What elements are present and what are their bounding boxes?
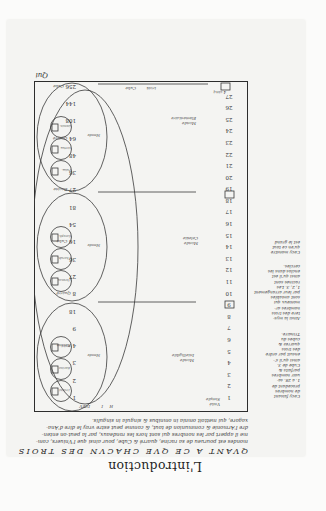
column-number: 13 bbox=[222, 250, 236, 262]
column-number: 14 bbox=[222, 239, 236, 251]
trois-label: trois bbox=[147, 86, 156, 91]
catchword: Qui bbox=[36, 71, 49, 79]
value: 108 bbox=[66, 118, 77, 124]
table-top-label-i: I bbox=[101, 404, 103, 409]
column-number: 7 bbox=[222, 320, 236, 332]
column-number: 1 bbox=[222, 389, 236, 401]
region-label-elementaire: Monde Elementaire bbox=[170, 116, 196, 126]
margin-line: tere des trois bbox=[254, 311, 300, 316]
value-row: 2 bbox=[36, 366, 76, 383]
margin-line: de nombres bbox=[265, 389, 300, 394]
column-number: 18 bbox=[222, 192, 236, 204]
value-row: 4 Racine bbox=[36, 332, 76, 349]
value-row: 108 bbox=[36, 107, 76, 124]
paragraph-line-1: mondes est pourueu de sa racine, quarré … bbox=[36, 438, 248, 445]
value-row: 27 bbox=[36, 263, 76, 280]
value-row: 8 Quarré bbox=[36, 280, 76, 297]
margin-line: racines sont bbox=[254, 279, 300, 284]
column-number: 9 bbox=[222, 297, 236, 309]
value: 4 bbox=[73, 343, 77, 349]
value-label: Quarré bbox=[53, 136, 67, 141]
column-number: 25 bbox=[222, 111, 236, 123]
margin-line: Ainsi la mys- bbox=[254, 316, 300, 321]
margin-line: Trinaire. bbox=[265, 331, 300, 336]
column-number: 12 bbox=[222, 262, 236, 274]
column-number: 20 bbox=[222, 169, 236, 181]
margin-line: parfaits & bbox=[265, 368, 300, 373]
svg-text:Monde: Monde bbox=[87, 133, 101, 137]
paragraph-line-4: xagore, qui mettoit omnia in omnibus & s… bbox=[92, 417, 248, 424]
value-row: 36 bbox=[36, 245, 76, 262]
value: 144 bbox=[66, 101, 77, 107]
column-number: 8 bbox=[222, 308, 236, 320]
value: 1 bbox=[73, 395, 77, 401]
value: 27 bbox=[69, 187, 76, 193]
cinq-label: 4 cinq bbox=[214, 90, 226, 95]
region-label-intelligible: Monde Intelligible bbox=[170, 353, 194, 363]
value-row: 1 bbox=[36, 384, 76, 401]
paragraph-line-2: me il appert par les nombres qui sont ho… bbox=[42, 431, 248, 438]
column-number: 26 bbox=[222, 100, 236, 112]
margin-line: nombres ar- bbox=[254, 305, 300, 310]
region-label-celeste: Monde Celeste bbox=[174, 236, 198, 246]
value: 27 bbox=[69, 274, 76, 280]
column-number: 5 bbox=[222, 343, 236, 355]
vnite-simple-label: Vnité Simple bbox=[200, 397, 220, 407]
column-number: 11 bbox=[222, 273, 236, 285]
margin-line: 1. a 28. sa- bbox=[265, 378, 300, 383]
page-title: L'introduction bbox=[108, 459, 202, 474]
column-number: 21 bbox=[222, 158, 236, 170]
column-number: 16 bbox=[222, 216, 236, 228]
margin-line: cubes du bbox=[265, 337, 300, 342]
margin-line: procedant de bbox=[265, 383, 300, 388]
column-number: 3 bbox=[222, 366, 236, 378]
value-row: 3 bbox=[36, 349, 76, 366]
value: 64 bbox=[69, 136, 76, 142]
column-number: 23 bbox=[222, 134, 236, 146]
section-heading: QVANT A CE QVE CHACVN DES TROIS bbox=[17, 447, 248, 456]
value-row: 54 bbox=[36, 211, 76, 228]
paragraph-line-3: dre l'Armonie & communion de tout, & com… bbox=[46, 424, 248, 431]
value: 3 bbox=[73, 360, 77, 366]
svg-text:Monde: Monde bbox=[87, 353, 101, 357]
margin-line: uoir nombres bbox=[265, 373, 300, 378]
margin-line: sont amiables bbox=[254, 295, 300, 300]
margin-note-lower: Cecy faisant de nombres procedant de 1. … bbox=[265, 331, 300, 399]
value-row: 18 bbox=[36, 297, 76, 314]
margin-line: quarrez & bbox=[265, 342, 300, 347]
cube-label: Cube bbox=[125, 86, 136, 91]
margin-line: ainsi qu'il est bbox=[254, 274, 300, 279]
value: 2 bbox=[73, 378, 77, 384]
value-label: Quarré bbox=[56, 291, 70, 296]
column-number: 6 bbox=[222, 331, 236, 343]
column-number: 22 bbox=[222, 146, 236, 158]
value-row: 9 bbox=[36, 315, 76, 332]
value-label: Cube bbox=[57, 239, 68, 244]
column-number: 4 bbox=[222, 355, 236, 367]
value: 48 bbox=[69, 153, 76, 159]
column-number: 19 bbox=[222, 181, 236, 193]
table-top-label-dieu: DIEV bbox=[79, 404, 90, 409]
column-number: 24 bbox=[222, 123, 236, 135]
rotated-page-content: L'introduction QVANT A CE QVE CHACVN DES… bbox=[0, 0, 326, 511]
value: 16 bbox=[69, 239, 76, 245]
value: 54 bbox=[69, 222, 76, 228]
margin-note-upper: Cecy monstre qu'en ce tout est le grand bbox=[271, 239, 300, 255]
margin-line: ainsi qu'il s'- bbox=[265, 357, 300, 362]
column-number: 2 bbox=[222, 378, 236, 390]
number-column: 1 2 3 4 5 6 7 8 9 10 11 12 13 14 15 16 1… bbox=[222, 88, 236, 401]
value: 256 bbox=[66, 84, 77, 90]
value-label: Racine bbox=[57, 343, 71, 348]
margin-line: qu'en ce tout bbox=[271, 245, 300, 250]
value-label: Racine bbox=[53, 187, 67, 192]
value-row: 48 bbox=[36, 142, 76, 159]
column-number: 10 bbox=[222, 285, 236, 297]
margin-line: Cecy faisant bbox=[265, 394, 300, 399]
svg-text:Monde: Monde bbox=[87, 243, 101, 247]
value-row: 16 Cube bbox=[36, 228, 76, 245]
value-row: 64 Quarré bbox=[36, 124, 76, 141]
margin-line: ensuit par ordre bbox=[265, 352, 300, 357]
margin-line: enclos dans les bbox=[254, 269, 300, 274]
value-column: 1 2 3 4 Racine 9 18 8 Quarré 27 36 16 Cu… bbox=[36, 72, 76, 401]
margin-note-middle: Ainsi la mys- tere des trois nombres ar-… bbox=[254, 264, 300, 321]
